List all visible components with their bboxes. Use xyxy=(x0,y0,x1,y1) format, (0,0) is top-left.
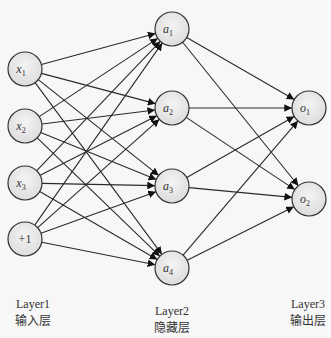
edge-x2-a3 xyxy=(41,132,157,179)
node-o2: o2 xyxy=(292,182,326,216)
edge-x3-a3 xyxy=(42,183,155,185)
node-b: +1 xyxy=(8,222,42,256)
layer1-caption: 输入层 xyxy=(3,313,63,330)
layer1-label: Layer1 输入层 xyxy=(3,296,63,330)
edge-x3-a2 xyxy=(40,116,157,176)
node-x3: x3 xyxy=(8,166,42,200)
node-a4: a4 xyxy=(155,251,189,285)
node-a1: a1 xyxy=(155,12,189,46)
edge-a3-o2 xyxy=(189,188,292,198)
edge-a4-o1 xyxy=(183,121,298,255)
edge-x1-a3 xyxy=(38,80,158,176)
edge-x3-a4 xyxy=(40,192,158,260)
node-x1: x1 xyxy=(8,52,42,86)
edge-a1-o2 xyxy=(183,42,299,186)
edge-a2-o2 xyxy=(186,117,295,189)
node-x2: x2 xyxy=(8,109,42,143)
node-o1: o1 xyxy=(292,91,326,125)
node-a2: a2 xyxy=(155,91,189,125)
edge-b-a3 xyxy=(41,192,156,233)
edge-a3-o1 xyxy=(187,116,294,177)
edge-a1-o1 xyxy=(187,37,295,99)
layer3-label: Layer3 输出层 xyxy=(278,296,331,330)
edge-x1-a1 xyxy=(41,33,155,64)
edge-x2-a2 xyxy=(42,110,155,124)
edge-a4-o2 xyxy=(187,207,294,261)
edge-b-a4 xyxy=(42,242,156,264)
node-label: +1 xyxy=(19,232,32,246)
layer2-label: Layer2 隐藏层 xyxy=(142,303,202,337)
layer2-caption: 隐藏层 xyxy=(142,320,202,337)
nodes: x1x2x3+1a1a2a3a4o1o2 xyxy=(8,12,326,285)
node-a3: a3 xyxy=(155,169,189,203)
layer3-caption: 输出层 xyxy=(278,313,331,330)
connections xyxy=(35,33,299,264)
layer3-name: Layer3 xyxy=(278,296,331,313)
layer2-name: Layer2 xyxy=(142,303,202,320)
neural-network-diagram: x1x2x3+1a1a2a3a4o1o2 xyxy=(0,0,331,338)
layer1-name: Layer1 xyxy=(3,296,63,313)
